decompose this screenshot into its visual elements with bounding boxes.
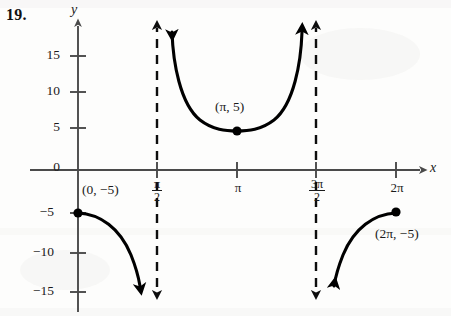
fraction-denominator: 2	[309, 191, 325, 203]
label-vertex-point: (π, 5)	[215, 99, 244, 115]
y-tick-label-neg10: −10	[10, 244, 54, 260]
fraction-denominator: 2	[152, 191, 162, 203]
x-tick-label-2pi: 2π	[383, 180, 411, 196]
y-tick-label-0: 0	[16, 159, 60, 175]
y-axis-label: y	[71, 2, 77, 18]
fraction-3pi-over-2: 3π 2	[309, 178, 325, 203]
y-tick-label-15: 15	[16, 47, 60, 63]
point-vertex	[232, 126, 241, 135]
x-axis-label: x	[430, 160, 436, 176]
label-left-endpoint: (0, −5)	[82, 182, 119, 198]
x-tick-label-pi: π	[228, 180, 248, 196]
x-axis	[30, 162, 420, 178]
curve-branch-right	[334, 213, 396, 286]
graph-figure: 19.	[0, 0, 451, 316]
y-tick-label-10: 10	[16, 83, 60, 99]
coordinate-plane	[0, 0, 451, 316]
point-left-endpoint	[73, 208, 82, 217]
y-axis	[70, 26, 86, 312]
x-tick-label-pi-over-2: π 2	[142, 178, 172, 203]
x-tick-label-3pi-over-2: 3π 2	[300, 178, 334, 203]
curve-branch-left	[78, 213, 140, 286]
y-tick-label-neg5: −5	[10, 204, 54, 220]
label-right-endpoint: (2π, −5)	[375, 226, 419, 242]
fraction-pi-over-2: π 2	[152, 178, 162, 203]
y-tick-label-neg15: −15	[10, 283, 54, 299]
y-tick-label-5: 5	[16, 119, 60, 135]
curve-branch-middle	[172, 32, 302, 131]
point-right-endpoint	[391, 207, 400, 216]
